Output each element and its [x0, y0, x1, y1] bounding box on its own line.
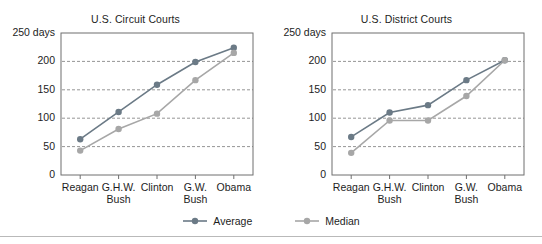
y-axis-tick-label: 0 [49, 168, 55, 180]
figure: U.S. Circuit Courts 050100150200250 days… [0, 0, 542, 244]
data-point-median [386, 117, 392, 123]
data-point-average [463, 77, 469, 83]
y-axis-tick-label: 150 [308, 83, 326, 95]
data-point-median [425, 117, 431, 123]
y-axis-tick-label: 50 [314, 140, 326, 152]
y-axis-tick-label: 50 [43, 140, 55, 152]
x-axis-tick-label-line: Bush [172, 193, 218, 205]
plot-frame [61, 33, 253, 175]
x-axis-tick-label: Obama [211, 181, 257, 193]
legend-swatch-median [294, 216, 320, 226]
data-point-median [154, 110, 160, 116]
series-line-median [80, 53, 234, 151]
data-point-average [425, 102, 431, 108]
bottom-divider [0, 236, 542, 237]
chart-panel-district-courts: U.S. District Courts 050100150200250 day… [271, 0, 542, 210]
y-axis-tick-label: 100 [308, 111, 326, 123]
series-line-average [351, 60, 505, 137]
plot-area-circuit-courts: 050100150200250 daysReaganG.H.W.BushClin… [0, 0, 271, 210]
x-axis-tick-label-line: Bush [443, 193, 489, 205]
data-point-median [77, 147, 83, 153]
legend-item-median: Median [294, 215, 359, 227]
data-point-median [463, 93, 469, 99]
data-point-average [154, 81, 160, 87]
y-axis-tick-label: 200 [308, 54, 326, 66]
y-axis-tick-label: 150 [37, 83, 55, 95]
data-point-median [231, 50, 237, 56]
y-axis-unit-label: 250 days [283, 26, 326, 38]
legend-item-average: Average [182, 215, 252, 227]
x-axis-tick-label: Obama [482, 181, 528, 193]
data-point-average [115, 109, 121, 115]
x-axis-tick-label-line: Obama [211, 181, 257, 193]
y-axis-tick-label: 0 [320, 168, 326, 180]
y-axis-unit-label: 250 days [12, 26, 55, 38]
y-axis-tick-label: 200 [37, 54, 55, 66]
data-point-average [348, 134, 354, 140]
legend-label: Median [325, 215, 359, 227]
data-point-average [77, 136, 83, 142]
data-point-median [502, 57, 508, 63]
data-point-median [348, 150, 354, 156]
y-axis-tick-label: 100 [37, 111, 55, 123]
data-point-median [115, 126, 121, 132]
data-point-average [386, 109, 392, 115]
data-point-average [192, 59, 198, 65]
chart-legend: AverageMedian [0, 212, 542, 230]
plot-area-district-courts: 050100150200250 daysReaganG.H.W.BushClin… [271, 0, 542, 210]
data-point-median [192, 77, 198, 83]
x-axis-tick-label-line: Bush [95, 193, 141, 205]
x-axis-tick-label-line: Obama [482, 181, 528, 193]
x-axis-tick-label-line: Bush [366, 193, 412, 205]
chart-panel-circuit-courts: U.S. Circuit Courts 050100150200250 days… [0, 0, 271, 210]
legend-label: Average [213, 215, 252, 227]
chart-panels: U.S. Circuit Courts 050100150200250 days… [0, 0, 542, 210]
legend-swatch-average [182, 216, 208, 226]
